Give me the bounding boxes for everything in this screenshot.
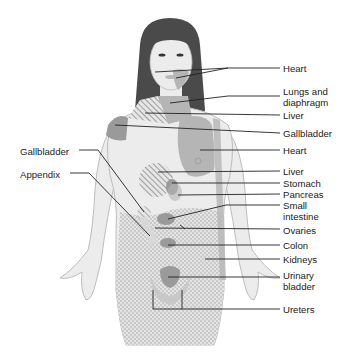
- label-ureters: Ureters: [283, 304, 314, 315]
- label-urinary-bladder: Urinary bladder: [283, 270, 315, 292]
- eye-left: [159, 53, 166, 56]
- label-heart-2: Heart: [283, 145, 306, 156]
- colon-region: [160, 238, 176, 248]
- label-appendix: Appendix: [20, 169, 60, 180]
- label-small-intestine: Small intestine: [283, 200, 319, 222]
- label-lungs-diaphragm: Lungs and diaphragm: [283, 86, 328, 108]
- label-stomach: Stomach: [283, 178, 321, 189]
- label-liver-2: Liver: [283, 166, 304, 177]
- label-heart-1: Heart: [283, 63, 306, 74]
- eye-right: [177, 53, 184, 56]
- small-intestine-region: [157, 213, 175, 225]
- label-gallbladder-2: Gallbladder: [20, 146, 69, 157]
- label-liver-1: Liver: [283, 110, 304, 121]
- gallbladder-region-shoulder: [106, 116, 128, 140]
- label-ovaries: Ovaries: [283, 225, 316, 236]
- label-pancreas: Pancreas: [283, 189, 324, 200]
- label-colon: Colon: [283, 240, 308, 251]
- label-kidneys: Kidneys: [283, 254, 317, 265]
- label-gallbladder-1: Gallbladder: [283, 128, 332, 139]
- pancreas-region: [168, 183, 182, 201]
